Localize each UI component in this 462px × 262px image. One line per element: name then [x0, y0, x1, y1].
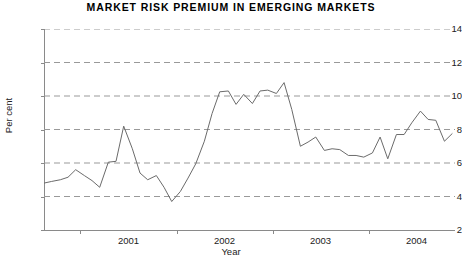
- y-tick-mark: [41, 29, 45, 30]
- y-tick-label: 6: [428, 158, 462, 168]
- x-tick-mark: [80, 230, 81, 234]
- y-tick-label: 4: [428, 192, 462, 202]
- y-tick-label: 12: [428, 58, 462, 68]
- x-tick-mark: [273, 230, 274, 234]
- y-tick-mark: [41, 96, 45, 97]
- x-axis-line: [44, 230, 455, 231]
- x-tick-label: 2003: [291, 235, 351, 246]
- chart-figure: MARKET RISK PREMIUM IN EMERGING MARKETS …: [0, 0, 462, 262]
- x-tick-label: 2001: [99, 235, 159, 246]
- y-tick-label: 14: [428, 24, 462, 34]
- x-axis-title: Year: [0, 246, 462, 257]
- y-tick-label: 8: [428, 125, 462, 135]
- data-line: [44, 83, 452, 202]
- data-series-group: [44, 83, 452, 202]
- y-tick-mark: [41, 63, 45, 64]
- plot-area: [44, 29, 455, 230]
- chart-title: MARKET RISK PREMIUM IN EMERGING MARKETS: [0, 1, 462, 13]
- y-tick-mark: [41, 197, 45, 198]
- y-tick-mark: [41, 230, 45, 231]
- x-tick-mark: [369, 230, 370, 234]
- x-tick-label: 2004: [387, 235, 447, 246]
- x-tick-mark: [177, 230, 178, 234]
- y-axis-title: Per cent: [3, 84, 14, 148]
- y-tick-label: 10: [428, 91, 462, 101]
- x-tick-label: 2002: [195, 235, 255, 246]
- y-tick-mark: [41, 130, 45, 131]
- y-tick-mark: [41, 163, 45, 164]
- y-tick-label: 2: [428, 225, 462, 235]
- chart-canvas: [44, 29, 455, 230]
